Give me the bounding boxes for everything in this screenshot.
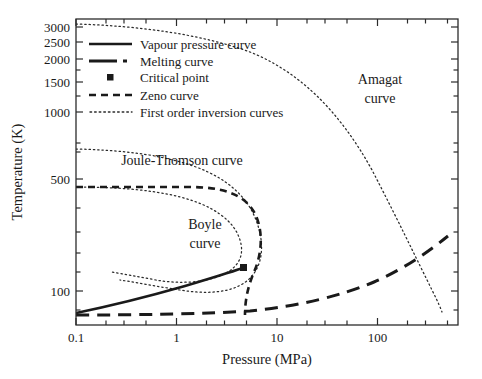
- x-tick-label-100: 100: [368, 330, 388, 345]
- x-tick-label-10: 10: [271, 330, 284, 345]
- x-axis-title: Pressure (MPa): [222, 351, 312, 368]
- legend-label-vapour-pressure-curve: Vapour pressure curve: [140, 37, 256, 52]
- x-tick-label-1: 1: [173, 330, 180, 345]
- x-tick-label-0-1: 0.1: [68, 330, 84, 345]
- y-tick-label-2500: 2500: [44, 35, 70, 50]
- annotation-amagat-curve-line2: curve: [364, 91, 395, 106]
- figure-container: 3000 2500 2000 1500 1000 500 100 0.1 1 1…: [0, 0, 482, 379]
- legend-label-critical-point: Critical point: [140, 70, 209, 85]
- y-tick-label-3000: 3000: [44, 20, 70, 35]
- y-axis-title: Temperature (K): [9, 123, 26, 220]
- y-tick-label-2000: 2000: [44, 52, 70, 67]
- legend-swatch-square-marker: [107, 74, 114, 81]
- chart-svg: 3000 2500 2000 1500 1000 500 100 0.1 1 1…: [0, 0, 482, 379]
- legend-label-zeno-curve: Zeno curve: [140, 88, 199, 103]
- critical-point-marker: [240, 264, 247, 271]
- annotation-boyle-curve-line2: curve: [189, 236, 220, 251]
- legend-label-melting-curve: Melting curve: [140, 54, 214, 69]
- y-tick-label-1000: 1000: [44, 105, 70, 120]
- plot-area-background: [76, 19, 458, 325]
- annotation-joule-thomson-curve: Joule-Thomson curve: [121, 153, 243, 168]
- annotation-boyle-curve-line1: Boyle: [188, 217, 221, 232]
- legend-label-first-order-inversion-curves: First order inversion curves: [140, 105, 283, 120]
- y-tick-label-100: 100: [51, 284, 71, 299]
- annotation-amagat-curve-line1: Amagat: [358, 72, 402, 87]
- y-tick-label-1500: 1500: [44, 75, 70, 90]
- y-tick-label-500: 500: [51, 172, 71, 187]
